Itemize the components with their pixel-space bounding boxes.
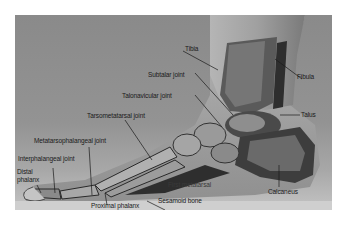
label-distal-phalanx-2: phalanx: [17, 177, 39, 184]
label-subtalar-joint: Subtalar joint: [148, 72, 185, 79]
label-distal-phalanx-1: Distal: [17, 169, 33, 176]
label-interphalangeal-joint: Interphalangeal joint: [18, 156, 74, 163]
label-first-metatarsal: First metatarsal: [168, 182, 211, 189]
label-proximal-phalanx: Proximal phalanx: [91, 203, 139, 210]
label-calcaneus: Calcaneus: [268, 189, 298, 196]
label-talus: Talus: [301, 112, 316, 119]
label-fibula: Fibula: [297, 74, 314, 81]
label-tarsometatarsal-joint: Tarsometatarsal joint: [87, 113, 145, 120]
label-tibia: Tibia: [185, 46, 198, 53]
label-talonavicular-joint: Talonavicular joint: [122, 93, 172, 100]
label-sesamoid-bone: Sesamoid bone: [158, 198, 202, 205]
label-metatarsophalangeal-joint: Metatarsophalangeal joint: [34, 138, 106, 145]
foot-anatomy-figure: Tibia Fibula Subtalar joint Talonavicula…: [15, 15, 332, 210]
